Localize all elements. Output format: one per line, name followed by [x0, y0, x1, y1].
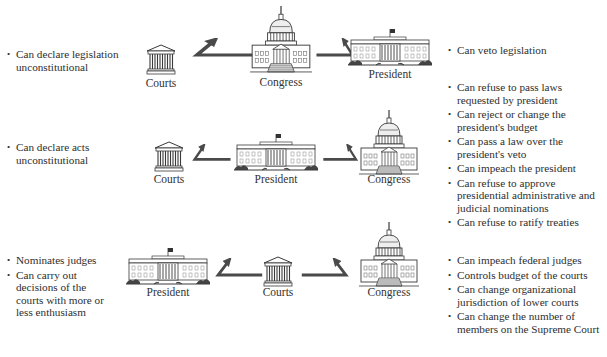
capitol-icon: [359, 222, 419, 288]
arrow-to-president: [210, 258, 264, 278]
bullet-item: Can pass a law over the president's veto: [448, 135, 606, 160]
white-house-icon: [348, 27, 432, 67]
bullet-item: Can refuse to ratify treaties: [448, 216, 606, 229]
node-label: Congress: [251, 76, 311, 88]
arrow-to-congress: [322, 144, 362, 162]
left-bullet-list: Can declare acts unconstitutional: [7, 141, 135, 168]
courthouse-icon: [263, 255, 293, 287]
bullet-item: Can change organizational jurisdiction o…: [448, 283, 606, 308]
bullet-item: Can veto legislation: [448, 44, 606, 57]
bullet-item: Can carry out decisions of the courts wi…: [7, 269, 107, 319]
node-label: Courts: [258, 286, 298, 298]
bullet-item: Can change the number of members on the …: [448, 310, 606, 335]
white-house-icon: [234, 132, 318, 172]
bullet-item: Can impeach federal judges: [448, 254, 606, 267]
right-bullet-list: Can refuse to pass laws requested by pre…: [448, 81, 606, 231]
node-label: Courts: [149, 173, 189, 185]
left-bullet-list: Nominates judges Can carry out decisions…: [7, 254, 107, 321]
white-house-icon: [126, 246, 210, 286]
bullet-item: Can declare acts unconstitutional: [7, 141, 135, 166]
bullet-item: Can refuse to pass laws requested by pre…: [448, 81, 606, 106]
bullet-item: Controls budget of the courts: [448, 269, 606, 282]
right-bullet-list: Can impeach federal judges Controls budg…: [448, 254, 606, 337]
bullet-item: Can declare legislation unconstitutional: [7, 48, 135, 73]
node-label: President: [246, 173, 306, 185]
courthouse-icon: [154, 140, 184, 172]
node-label: President: [360, 68, 420, 80]
capitol-icon: [359, 110, 419, 176]
left-bullet-list: Can declare legislation unconstitutional: [7, 48, 135, 75]
arrow-to-courts: [188, 144, 232, 162]
arrow-to-congress: [300, 258, 354, 278]
node-label: Congress: [359, 173, 419, 185]
node-label: President: [138, 286, 198, 298]
node-label: Courts: [141, 77, 181, 89]
capitol-icon: [250, 6, 312, 74]
node-label: Congress: [359, 286, 419, 298]
bullet-item: Can reject or change the president's bud…: [448, 108, 606, 133]
courthouse-icon: [146, 43, 176, 75]
bullet-item: Can refuse to approve presidential admin…: [448, 177, 606, 215]
bullet-item: Nominates judges: [7, 254, 107, 267]
right-bullet-list: Can veto legislation: [448, 44, 606, 59]
bullet-item: Can impeach the president: [448, 162, 606, 175]
